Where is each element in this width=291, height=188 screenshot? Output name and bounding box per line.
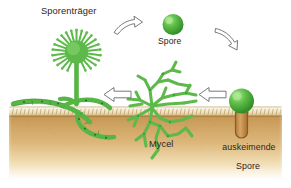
label-spore: Spore xyxy=(158,37,181,46)
label-auskeimende-spore-line1: auskeimende xyxy=(222,142,275,152)
left-fade xyxy=(0,0,12,188)
right-fade xyxy=(279,0,291,188)
label-sporentraeger: Sporenträger xyxy=(41,7,96,17)
label-auskeimende-spore-line2: Spore xyxy=(236,161,260,171)
label-auskeimende-spore: auskeimende Spore xyxy=(212,134,274,180)
label-mycel: Mycel xyxy=(149,140,174,150)
spore-sphere-icon xyxy=(163,14,184,35)
fungus-life-cycle-figure: Sporenträger Spore Mycel auskeimende Spo… xyxy=(0,0,291,188)
